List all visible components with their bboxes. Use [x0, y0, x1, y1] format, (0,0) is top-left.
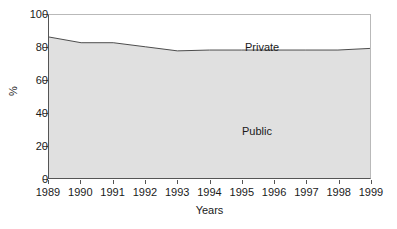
y-tick-label: 20 — [14, 141, 48, 152]
area-series-svg — [49, 15, 370, 178]
x-tick-mark — [210, 180, 211, 184]
x-tick-mark — [48, 180, 49, 184]
public-area-shape — [49, 37, 370, 178]
private-area-label: Private — [245, 41, 279, 53]
x-tick-mark — [177, 180, 178, 184]
x-tick-mark — [274, 180, 275, 184]
x-tick-mark — [80, 180, 81, 184]
x-tick-mark — [339, 180, 340, 184]
x-tick-mark — [371, 180, 372, 184]
x-tick-mark — [113, 180, 114, 184]
x-tick-mark — [145, 180, 146, 184]
x-tick-mark — [306, 180, 307, 184]
y-axis-title: % — [5, 83, 21, 113]
y-tick-label: 100 — [14, 9, 48, 20]
x-tick-label: 1999 — [349, 186, 393, 199]
plot-area: Private Public — [48, 14, 371, 179]
public-area-label: Public — [242, 125, 272, 137]
chart-screenshot: 020406080100 % Private Public 1989199019… — [0, 0, 397, 229]
x-axis-title: Years — [48, 204, 371, 216]
x-tick-mark — [242, 180, 243, 184]
y-tick-label: 80 — [14, 42, 48, 53]
y-axis-title-text: % — [5, 86, 21, 96]
